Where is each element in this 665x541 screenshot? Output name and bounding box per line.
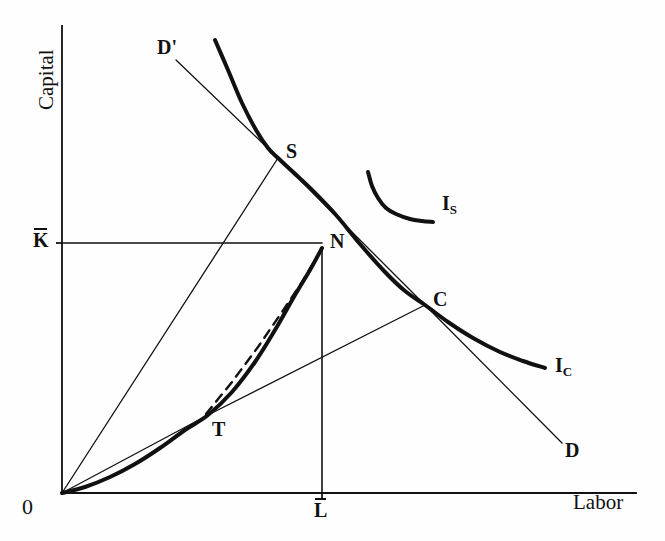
curve-label-ic: IC (555, 355, 572, 378)
lbar-overbar-wrap: L (314, 500, 327, 520)
x-tick-label-lbar: L (314, 500, 327, 520)
lbar-overbar (315, 498, 326, 500)
origin-label: 0 (22, 496, 33, 518)
kbar-letter: K (33, 229, 49, 251)
figure-canvas: Capital Labor 0 K L S C N T D' D IS IC (0, 0, 665, 541)
kbar-overbar-wrap: K (33, 230, 49, 250)
point-label-n: N (330, 231, 344, 251)
x-axis-label-labor: Labor (573, 492, 623, 513)
kbar-overbar (34, 228, 47, 230)
ic-base: I (555, 354, 563, 376)
line-label-d: D (565, 440, 579, 460)
point-label-c: C (433, 289, 447, 309)
curve-ray-O-T-C (62, 305, 425, 493)
is-base: I (442, 192, 450, 214)
ic-subscript: C (563, 364, 572, 379)
curve-chord-T-N-dashed (206, 255, 318, 414)
y-tick-label-kbar: K (33, 230, 49, 250)
curve-production-curve-O-T-N (62, 248, 322, 493)
point-label-t: T (212, 419, 225, 439)
point-label-s: S (286, 141, 297, 161)
axis-lines (62, 26, 636, 493)
is-subscript: S (450, 202, 457, 217)
diagram-strokes (56, 26, 636, 499)
curve-I_S (368, 172, 433, 222)
line-label-d-prime: D' (157, 37, 177, 57)
lbar-letter: L (314, 499, 327, 521)
y-axis-label-capital: Capital (36, 49, 57, 110)
curve-label-is: IS (442, 193, 457, 216)
